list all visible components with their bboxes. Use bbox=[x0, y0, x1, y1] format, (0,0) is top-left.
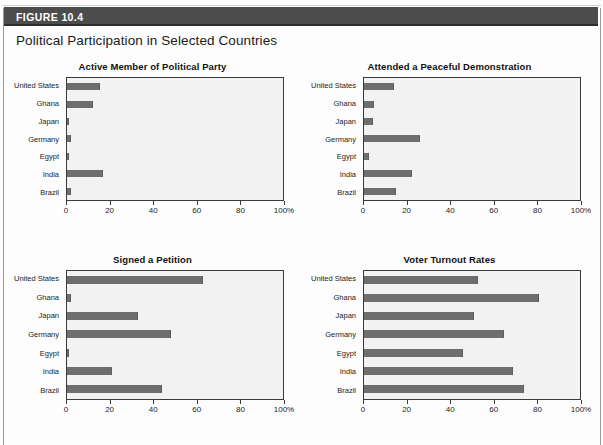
y-axis-tick-label: Germany bbox=[301, 130, 360, 148]
y-axis-tick-label: Ghana bbox=[4, 95, 63, 113]
y-axis-labels: United StatesGhanaJapanGermanyEgyptIndia… bbox=[301, 270, 360, 400]
bar-row bbox=[67, 95, 283, 112]
bar-row bbox=[67, 344, 283, 362]
x-axis-tick-label: 100% bbox=[274, 405, 294, 414]
bar-row bbox=[364, 165, 580, 182]
chart-panel: Attended a Peaceful DemonstrationUnited … bbox=[301, 57, 598, 250]
x-axis-tick-label: 20 bbox=[105, 206, 114, 215]
x-axis-tick bbox=[494, 400, 495, 404]
y-axis-tick-label: United States bbox=[301, 77, 360, 95]
bar bbox=[67, 349, 69, 357]
bar-row bbox=[364, 271, 580, 289]
y-axis-tick-label: India bbox=[4, 166, 63, 184]
bar bbox=[67, 294, 71, 302]
y-axis-tick-label: Ghana bbox=[301, 95, 360, 113]
y-axis-tick-label: Egypt bbox=[4, 148, 63, 166]
x-axis-tick bbox=[537, 400, 538, 404]
x-axis-tick bbox=[450, 400, 451, 404]
figure-page: FIGURE 10.4 Political Participation in S… bbox=[0, 0, 603, 445]
x-axis-tick bbox=[110, 400, 111, 404]
y-axis-tick-label: Germany bbox=[4, 130, 63, 148]
y-axis-tick-label: Ghana bbox=[4, 288, 63, 307]
bar-row bbox=[67, 307, 283, 325]
bar bbox=[67, 330, 171, 338]
x-axis-tick bbox=[407, 400, 408, 404]
y-axis-tick-label: Germany bbox=[301, 325, 360, 344]
bar bbox=[67, 385, 162, 393]
y-axis-tick-label: United States bbox=[4, 77, 63, 95]
figure-header-band: FIGURE 10.4 bbox=[4, 7, 598, 26]
bar-row bbox=[67, 113, 283, 130]
y-axis-labels: United StatesGhanaJapanGermanyEgyptIndia… bbox=[4, 77, 63, 201]
x-axis-tick-label: 100% bbox=[274, 206, 294, 215]
y-axis-tick-label: Brazil bbox=[301, 183, 360, 201]
bar bbox=[364, 170, 412, 177]
bar-row bbox=[364, 130, 580, 147]
bar bbox=[364, 294, 539, 302]
bar bbox=[67, 135, 71, 142]
bar bbox=[67, 83, 100, 90]
bar-row bbox=[364, 325, 580, 343]
x-axis-tick-label: 0 bbox=[64, 206, 68, 215]
bar-row bbox=[67, 183, 283, 200]
bar bbox=[364, 349, 463, 357]
x-axis-tick bbox=[494, 201, 495, 205]
bar-rows bbox=[67, 271, 283, 399]
bar bbox=[67, 276, 203, 284]
bar bbox=[364, 188, 396, 195]
bar bbox=[364, 101, 374, 108]
bar-row bbox=[364, 380, 580, 398]
x-axis-tick-label: 40 bbox=[446, 405, 455, 414]
x-axis-tick-label: 80 bbox=[533, 405, 542, 414]
x-axis-tick-label: 60 bbox=[192, 206, 201, 215]
x-axis-tick-label: 80 bbox=[533, 206, 542, 215]
chart-panel: Signed a PetitionUnited StatesGhanaJapan… bbox=[4, 250, 301, 443]
chart-panel: Voter Turnout RatesUnited StatesGhanaJap… bbox=[301, 250, 598, 443]
x-axis-tick-label: 40 bbox=[149, 206, 158, 215]
bar-row bbox=[67, 78, 283, 95]
x-axis-tick-label: 100% bbox=[571, 405, 591, 414]
bar-row bbox=[67, 148, 283, 165]
y-axis-tick-label: Egypt bbox=[301, 344, 360, 363]
bar-row bbox=[364, 289, 580, 307]
bar-rows bbox=[67, 78, 283, 200]
figure-number-label: FIGURE 10.4 bbox=[16, 11, 83, 23]
x-axis: 020406080100% bbox=[363, 400, 581, 418]
y-axis-tick-label: Japan bbox=[301, 112, 360, 130]
y-axis-labels: United StatesGhanaJapanGermanyEgyptIndia… bbox=[301, 77, 360, 201]
x-axis-tick bbox=[581, 201, 582, 205]
x-axis-tick-label: 80 bbox=[236, 405, 245, 414]
page-border-top bbox=[3, 5, 601, 6]
x-axis: 020406080100% bbox=[66, 400, 284, 418]
bar-row bbox=[364, 183, 580, 200]
bar bbox=[364, 135, 420, 142]
x-axis-tick-label: 0 bbox=[361, 405, 365, 414]
bar bbox=[364, 276, 478, 284]
x-axis-tick-label: 40 bbox=[149, 405, 158, 414]
bar-row bbox=[67, 130, 283, 147]
y-axis-tick-label: United States bbox=[301, 270, 360, 289]
plot-area bbox=[66, 270, 284, 400]
x-axis: 020406080100% bbox=[66, 201, 284, 219]
y-axis-tick-label: United States bbox=[4, 270, 63, 289]
x-axis-tick bbox=[363, 400, 364, 404]
y-axis-tick-label: Japan bbox=[4, 307, 63, 326]
plot-area bbox=[363, 270, 581, 400]
x-axis-tick-label: 20 bbox=[402, 405, 411, 414]
y-axis-tick-label: Brazil bbox=[301, 381, 360, 400]
x-axis-tick bbox=[66, 400, 67, 404]
x-axis-tick bbox=[153, 201, 154, 205]
plot-area bbox=[363, 77, 581, 201]
x-axis-tick bbox=[284, 201, 285, 205]
bar-row bbox=[67, 362, 283, 380]
chart-title: Signed a Petition bbox=[4, 254, 301, 265]
bar bbox=[364, 385, 524, 393]
bar bbox=[67, 101, 93, 108]
x-axis-tick-label: 0 bbox=[361, 206, 365, 215]
x-axis-tick-label: 60 bbox=[489, 405, 498, 414]
bar bbox=[67, 367, 112, 375]
x-axis: 020406080100% bbox=[363, 201, 581, 219]
bar bbox=[67, 170, 103, 177]
x-axis-tick-label: 60 bbox=[192, 405, 201, 414]
bar bbox=[364, 367, 513, 375]
